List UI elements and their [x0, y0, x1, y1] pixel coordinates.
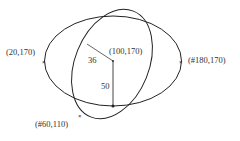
point-bottom-intersection-marker	[112, 105, 115, 108]
label-segment-vertical: 50	[101, 82, 110, 91]
point-center-marker	[112, 60, 114, 62]
point-bottom-marker: ×	[78, 113, 82, 119]
label-center-point: (100,170)	[109, 47, 142, 56]
label-right-point: (#180,170)	[188, 56, 226, 65]
label-left-point: (20,170)	[6, 48, 35, 57]
point-right-marker: ×	[179, 59, 183, 65]
point-left-marker: ×	[42, 59, 46, 65]
tilted-ellipse	[56, 0, 167, 131]
label-bottom-point: (#60,110)	[35, 120, 68, 129]
label-segment-minor: 36	[88, 56, 97, 65]
